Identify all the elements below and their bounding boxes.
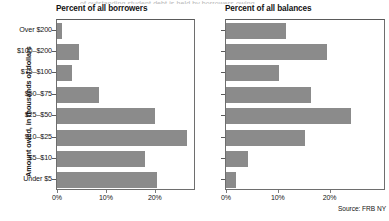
- bar: [226, 44, 327, 60]
- bar: [57, 130, 187, 146]
- bar: [226, 65, 279, 81]
- y-axis-label-3: $50–$75: [6, 90, 52, 98]
- y-axis-label-4: $25–$50: [6, 111, 52, 119]
- x-axis-label-1: 10%: [271, 194, 285, 202]
- x-tickmark-1: [106, 190, 107, 193]
- y-tickmark-6: [221, 158, 225, 159]
- panel-title-balances: Percent of all balances: [225, 4, 311, 14]
- x-axis-label-0: 0%: [221, 194, 231, 202]
- bar: [57, 108, 155, 124]
- bar-series-balances: [226, 20, 384, 189]
- x-tickmark-0: [226, 190, 227, 193]
- y-tickmark-7: [221, 179, 225, 180]
- bar: [226, 151, 248, 167]
- bar: [57, 151, 145, 167]
- plot-area-borrowers: [56, 19, 195, 190]
- bar: [226, 108, 351, 124]
- y-tickmark-5: [221, 137, 225, 138]
- y-tickmark-4: [221, 115, 225, 116]
- y-tickmark-7: [52, 179, 56, 180]
- x-axis-label-0: 0%: [52, 194, 62, 202]
- bar: [226, 130, 305, 146]
- bar: [226, 172, 236, 188]
- x-axis-label-2: 20%: [148, 194, 162, 202]
- y-tickmark-4: [52, 115, 56, 116]
- y-axis-label-1: $100–$200: [6, 47, 52, 55]
- y-tickmark-5: [52, 137, 56, 138]
- bar: [226, 23, 286, 39]
- source-note: Source: FRB NY: [338, 205, 386, 213]
- y-tickmark-1: [221, 51, 225, 52]
- bar: [57, 87, 99, 103]
- panel-balances: Percent of all balances 0%10%20% Source:…: [196, 0, 389, 221]
- y-axis-label-7: Under $5: [6, 175, 52, 183]
- y-axis-label-6: $5–$10: [6, 154, 52, 162]
- bar: [57, 172, 157, 188]
- bar: [57, 44, 79, 60]
- panel-borrowers: Percent of all borrowers Amount owed, in…: [0, 0, 196, 221]
- y-tickmark-0: [221, 30, 225, 31]
- y-tickmark-2: [52, 72, 56, 73]
- y-axis-tick-labels: Over $200$100–$200$75–$100$50–$75$25–$50…: [6, 0, 52, 221]
- panel-title-borrowers: Percent of all borrowers: [56, 4, 147, 14]
- y-tickmark-3: [221, 94, 225, 95]
- y-axis-label-2: $75–$100: [6, 68, 52, 76]
- x-axis-label-1: 10%: [99, 194, 113, 202]
- bar: [57, 23, 62, 39]
- x-axis-label-2: 20%: [323, 194, 337, 202]
- bar-series-borrowers: [57, 20, 194, 189]
- x-tickmark-1: [278, 190, 279, 193]
- y-tickmark-1: [52, 51, 56, 52]
- bar: [57, 65, 72, 81]
- x-tickmark-2: [330, 190, 331, 193]
- x-tickmark-0: [57, 190, 58, 193]
- y-tickmark-0: [52, 30, 56, 31]
- y-axis-label-5: $10–$25: [6, 133, 52, 141]
- plot-area-balances: [225, 19, 385, 190]
- y-tickmark-3: [52, 94, 56, 95]
- y-axis-label-0: Over $200: [6, 26, 52, 34]
- bar: [226, 87, 311, 103]
- y-tickmark-6: [52, 158, 56, 159]
- y-tickmark-2: [221, 72, 225, 73]
- x-tickmark-2: [155, 190, 156, 193]
